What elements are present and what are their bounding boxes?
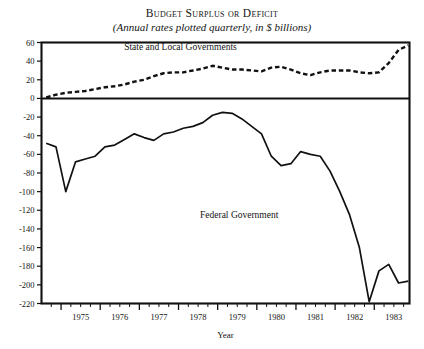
- y-tick-label: -180: [19, 261, 35, 271]
- y-tick-label: -40: [23, 131, 34, 141]
- y-tick-label: -80: [23, 168, 34, 178]
- y-tick-label: 20: [26, 75, 35, 85]
- x-tick-label: 1979: [229, 312, 246, 322]
- y-axis-ticks: 6040200-20-40-60-80-100-120-140-160-180-…: [19, 38, 42, 309]
- x-tick-label: 1982: [346, 312, 363, 322]
- x-axis-title: Year: [217, 330, 234, 340]
- x-axis-ticks: 197519761977197819791980198119821983: [51, 304, 403, 322]
- y-tick-label: -200: [19, 280, 35, 290]
- y-tick-label: 0: [30, 93, 34, 103]
- plot-frame: [42, 43, 410, 304]
- y-tick-label: 60: [26, 38, 35, 48]
- x-tick-label: 1978: [190, 312, 207, 322]
- series-state-and-local: [46, 45, 408, 97]
- data-series: [46, 45, 408, 301]
- x-tick-label: 1976: [111, 312, 128, 322]
- x-tick-label: 1975: [72, 312, 89, 322]
- label-federal: Federal Government: [200, 210, 279, 220]
- plot-area: 6040200-20-40-60-80-100-120-140-160-180-…: [0, 0, 424, 349]
- y-tick-label: -60: [23, 149, 34, 159]
- y-tick-label: -140: [19, 224, 35, 234]
- x-tick-label: 1983: [385, 312, 402, 322]
- series-federal: [46, 112, 408, 301]
- x-tick-label: 1981: [307, 312, 324, 322]
- y-tick-label: -120: [19, 205, 35, 215]
- budget-deficit-chart: Budget Surplus or Deficit (Annual rates …: [0, 0, 424, 349]
- y-tick-label: -160: [19, 243, 35, 253]
- series-annotations: State and Local GovernmentsFederal Gover…: [124, 42, 279, 220]
- label-state-and-local: State and Local Governments: [124, 42, 237, 52]
- y-tick-label: 40: [26, 56, 35, 66]
- x-tick-label: 1977: [150, 312, 167, 322]
- x-tick-label: 1980: [268, 312, 285, 322]
- y-tick-label: -220: [19, 299, 35, 309]
- y-tick-label: -20: [23, 112, 34, 122]
- y-tick-label: -100: [19, 187, 35, 197]
